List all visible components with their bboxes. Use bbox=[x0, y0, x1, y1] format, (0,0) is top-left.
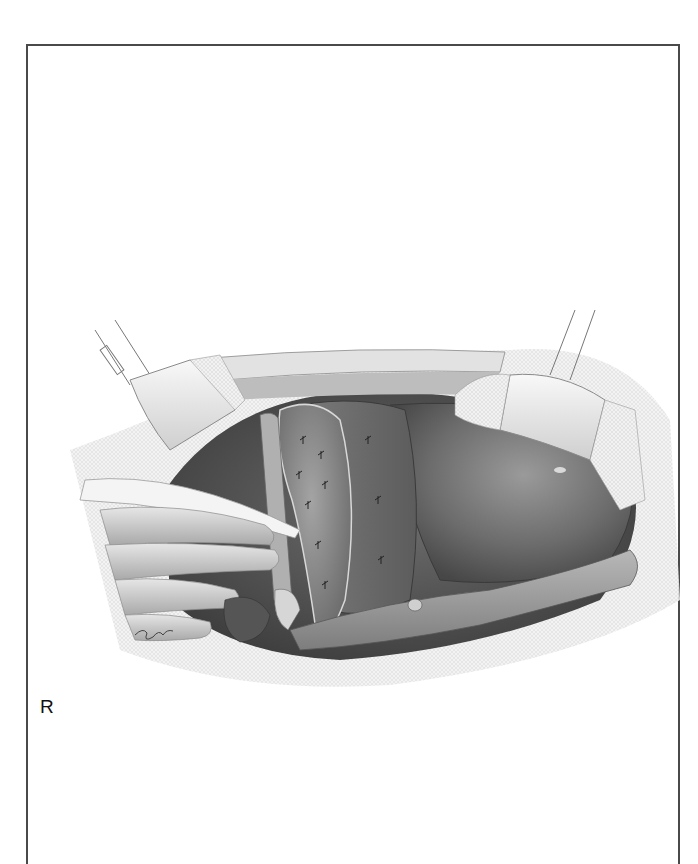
orientation-label: R bbox=[40, 696, 54, 718]
surgical-illustration bbox=[60, 300, 690, 720]
